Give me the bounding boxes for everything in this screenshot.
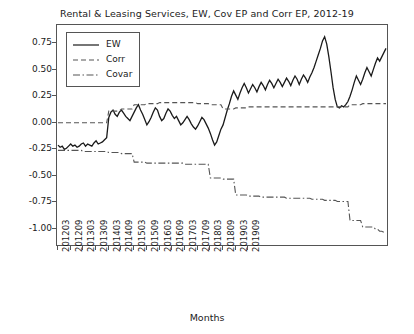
x-tick-mark — [70, 246, 71, 250]
y-tick-label: -0.25 — [29, 143, 52, 153]
x-tick-mark — [171, 246, 172, 250]
y-tick-label: 0.50 — [32, 64, 52, 74]
x-tick-mark — [222, 246, 223, 250]
x-tick-mark — [247, 246, 248, 250]
x-tick-mark — [57, 246, 58, 250]
x-tick-mark — [82, 246, 83, 250]
legend-label-covar: Covar — [106, 70, 132, 79]
y-tick-mark — [52, 95, 56, 96]
x-tick-label: 201909 — [251, 220, 261, 252]
x-tick-mark — [209, 246, 210, 250]
legend-swatch-ew — [72, 40, 100, 50]
y-tick-mark — [52, 69, 56, 70]
legend-label-ew: EW — [106, 40, 121, 49]
x-tick-mark — [120, 246, 121, 250]
y-tick-label: -0.50 — [29, 170, 52, 180]
y-tick-mark — [52, 175, 56, 176]
y-tick-mark — [52, 122, 56, 123]
x-tick-mark — [235, 246, 236, 250]
legend-label-corr: Corr — [106, 55, 125, 64]
x-tick-mark — [108, 246, 109, 250]
y-tick-label: 0.75 — [32, 37, 52, 47]
chart-title: Rental & Leasing Services, EW, Cov EP an… — [0, 8, 414, 19]
x-tick-mark — [184, 246, 185, 250]
legend-item-ew: EW — [72, 37, 132, 52]
chart-figure: Rental & Leasing Services, EW, Cov EP an… — [0, 0, 414, 334]
y-tick-label: -1.00 — [29, 223, 52, 233]
y-tick-label: 0.25 — [32, 90, 52, 100]
legend-item-covar: Covar — [72, 67, 132, 82]
chart-legend: EW Corr Covar — [66, 32, 140, 87]
x-tick-mark — [159, 246, 160, 250]
legend-item-corr: Corr — [72, 52, 132, 67]
y-tick-mark — [52, 148, 56, 149]
y-tick-label: 0.00 — [32, 117, 52, 127]
legend-swatch-covar — [72, 70, 100, 80]
y-tick-mark — [52, 228, 56, 229]
x-tick-mark — [146, 246, 147, 250]
y-tick-mark — [52, 201, 56, 202]
x-tick-mark — [197, 246, 198, 250]
legend-swatch-corr — [72, 55, 100, 65]
x-tick-mark — [95, 246, 96, 250]
x-tick-mark — [133, 246, 134, 250]
y-tick-mark — [52, 42, 56, 43]
x-axis-label: Months — [0, 312, 414, 323]
y-tick-label: -0.75 — [29, 196, 52, 206]
